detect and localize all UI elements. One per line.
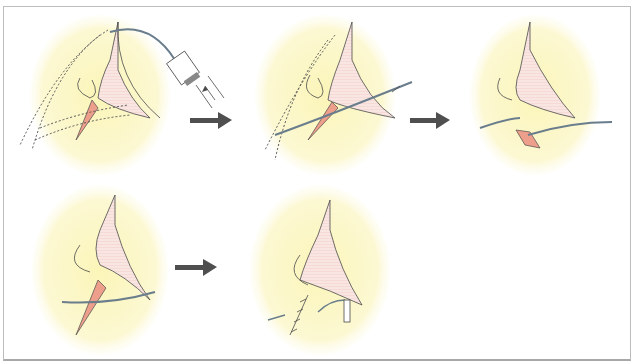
skin-area — [32, 185, 168, 355]
panel-5-sutured-closure — [250, 185, 390, 355]
panel-2-catheter-insertion — [255, 15, 412, 175]
panel-1-injection — [20, 15, 224, 175]
skin-area — [255, 15, 395, 175]
panel-3-tube-placement — [470, 15, 612, 175]
right-arrow-icon — [190, 112, 232, 129]
drain-tube — [344, 300, 350, 322]
right-arrow-icon — [175, 259, 217, 276]
procedure-diagram — [0, 0, 633, 364]
right-arrow-icon — [410, 112, 450, 129]
panel-4-wound — [32, 185, 168, 355]
syringe-icon — [167, 51, 224, 108]
